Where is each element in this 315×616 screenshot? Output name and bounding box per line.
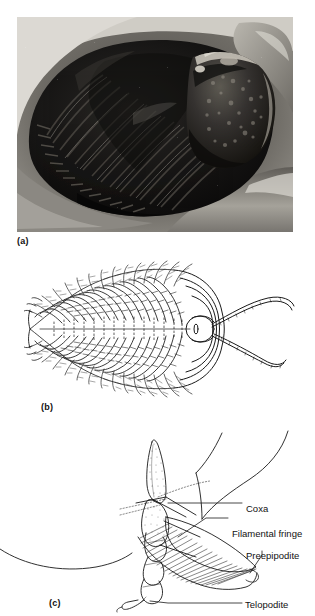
- panel-label-b: (b): [41, 402, 53, 412]
- photo-canvas: [17, 17, 293, 232]
- panel-c-appendage-detail: [0, 425, 315, 616]
- panel-label-c: (c): [49, 598, 61, 608]
- panel-a-fossil-photograph: [17, 17, 293, 232]
- figure-page: (a): [0, 0, 315, 616]
- label-coxa: Coxa: [246, 503, 268, 514]
- panel-b-ventral-drawing: [24, 256, 300, 402]
- label-filamental-fringe: Filamental fringe: [232, 528, 302, 539]
- label-telopodite: Telopodite: [245, 599, 288, 610]
- label-preepipodite: Preepipodite: [246, 550, 299, 561]
- panel-label-a: (a): [17, 236, 29, 246]
